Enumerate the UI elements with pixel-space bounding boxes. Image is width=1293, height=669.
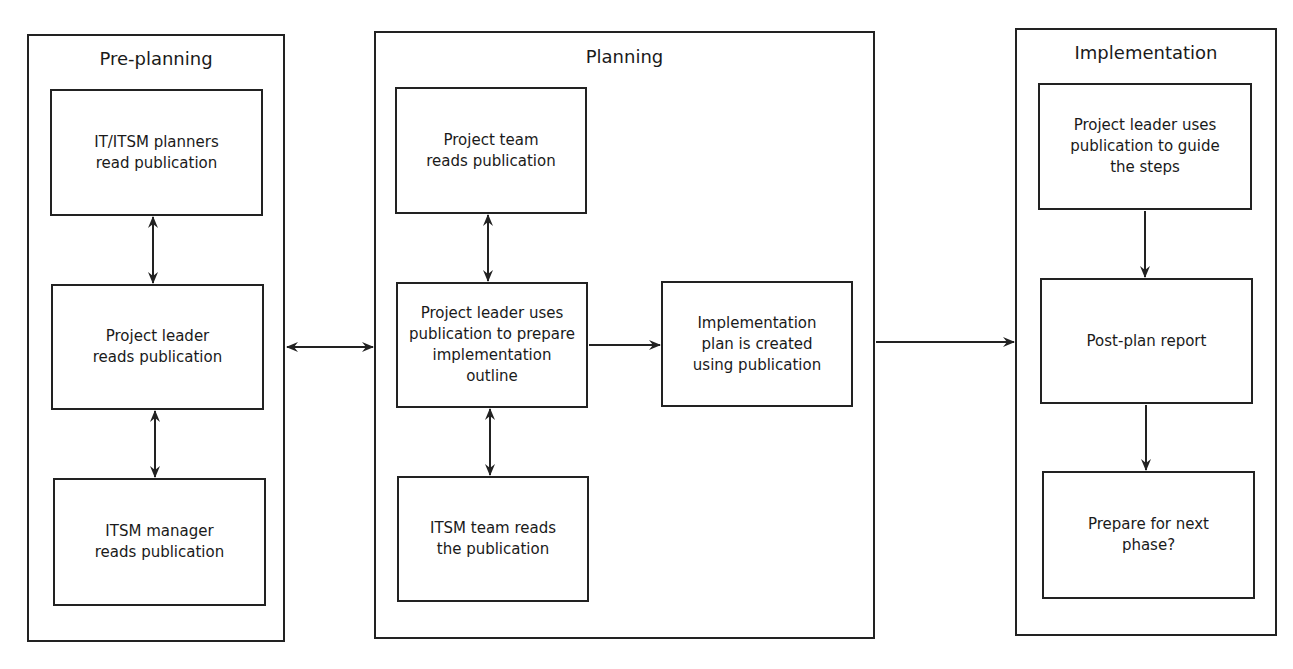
connector-arrows: [0, 0, 1293, 669]
